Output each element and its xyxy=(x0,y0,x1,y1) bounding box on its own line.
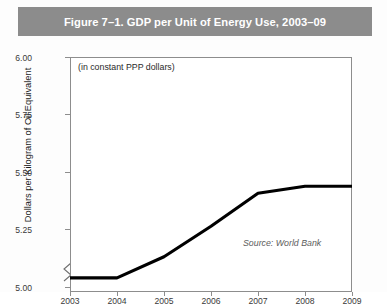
source-annotation: Source: World Bank xyxy=(243,238,321,248)
chart-area: Dollars per Kilogram of Oil Equivalent 6… xyxy=(0,40,387,292)
figure-title-banner: Figure 7–1. GDP per Unit of Energy Use, … xyxy=(18,7,372,36)
y-tick-label-575: 5.75 xyxy=(0,110,32,120)
y-tick-label-525: 5.25 xyxy=(0,225,32,235)
x-tick-label-2004: 2004 xyxy=(94,296,140,306)
y-tick-label-600: 6.00 xyxy=(0,53,32,63)
x-tick-label-2005: 2005 xyxy=(141,296,187,306)
y-tick-label-550: 5.50 xyxy=(0,168,32,178)
x-tick-label-2006: 2006 xyxy=(188,296,234,306)
y-axis-title: Dollars per Kilogram of Oil Equivalent xyxy=(23,45,33,245)
chart-subtitle-note: (in constant PPP dollars) xyxy=(78,62,175,72)
x-tick-label-2003: 2003 xyxy=(47,296,93,306)
y-tick-label-500: 5.00 xyxy=(0,283,32,293)
x-tick-label-2007: 2007 xyxy=(235,296,281,306)
plot-frame xyxy=(70,57,352,292)
page-title: Figure 7–1. GDP per Unit of Energy Use, … xyxy=(64,16,326,28)
x-tick-label-2009: 2009 xyxy=(329,296,375,306)
x-tick-label-2008: 2008 xyxy=(282,296,328,306)
